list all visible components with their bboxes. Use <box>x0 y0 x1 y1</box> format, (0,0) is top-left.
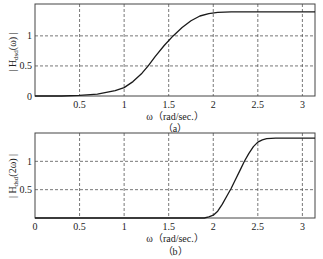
y-tick-label: 0.5 <box>20 184 33 195</box>
x-tick-label: 1.5 <box>162 99 175 110</box>
ylabel-a-arg: (ω) | <box>7 32 19 50</box>
x-tick-label: 2 <box>211 99 216 110</box>
ylabel-b-arg: (2ω) | <box>7 154 19 177</box>
y-tick-label: 1 <box>27 156 32 167</box>
panel-b-y-ticks: 0.51 <box>20 156 33 195</box>
panel-a-x-axis-label: ω（rad/sec.） <box>146 111 203 122</box>
panel-a-frame <box>35 4 315 96</box>
panel-a-y-ticks: 00.51 <box>20 30 33 101</box>
panel-a-grid <box>35 4 315 96</box>
x-tick-label: 2.5 <box>252 99 265 110</box>
panel-a-caption: （a） <box>163 123 187 134</box>
panel-a-x-ticks: 0.511.522.53 <box>73 99 305 110</box>
ylabel-b-main: | H <box>7 186 18 198</box>
panel-b-plot: 00.511.522.53 0.51 | Hdsd(2ω) | ω（rad/se… <box>7 133 315 257</box>
x-tick-label: 2 <box>211 221 216 232</box>
panel-b-curve <box>35 138 315 218</box>
x-tick-label: 2.5 <box>252 221 265 232</box>
x-tick-label: 3 <box>300 99 305 110</box>
ylabel-a-subscript: dsd <box>12 50 20 60</box>
x-tick-label: 1.5 <box>162 221 175 232</box>
panel-b-caption: （b） <box>163 246 188 257</box>
ylabel-a-main: | H <box>7 60 18 72</box>
panel-a-plot: 0.511.522.53 00.51 | Hdsd(ω) | ω（rad/sec… <box>7 4 315 134</box>
x-tick-label: 1 <box>122 221 127 232</box>
panel-b-grid <box>35 133 315 218</box>
panel-b-x-axis-label: ω（rad/sec.） <box>146 233 203 244</box>
x-tick-label: 0.5 <box>73 221 86 232</box>
figure-canvas: 0.511.522.53 00.51 | Hdsd(ω) | ω（rad/sec… <box>0 0 323 259</box>
ylabel-b-subscript: dsd <box>12 176 20 186</box>
y-tick-label: 0.5 <box>20 60 33 71</box>
panel-b-x-ticks: 00.511.522.53 <box>33 221 305 232</box>
x-tick-label: 0.5 <box>73 99 86 110</box>
y-tick-label: 0 <box>27 91 32 102</box>
x-tick-label: 3 <box>300 221 305 232</box>
panel-b-y-axis-label: | Hdsd(2ω) | <box>7 154 20 198</box>
x-tick-label: 1 <box>122 99 127 110</box>
x-tick-label: 0 <box>33 221 38 232</box>
panel-a-y-axis-label: | Hdsd(ω) | <box>7 32 20 71</box>
panel-a-curve <box>35 12 315 96</box>
panel-b-frame <box>35 133 315 218</box>
y-tick-label: 1 <box>27 30 32 41</box>
